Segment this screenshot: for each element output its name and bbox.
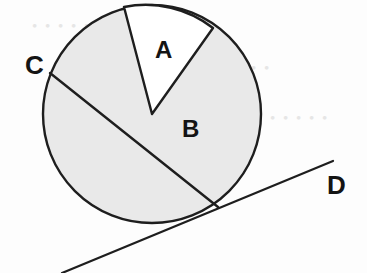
- geometry-figure: • • • • • • • • • • • • • • • • • • • C …: [0, 0, 367, 273]
- point-label-d: D: [327, 172, 346, 198]
- region-label-a: A: [155, 38, 172, 62]
- region-label-b: B: [182, 117, 199, 141]
- point-label-c: C: [25, 52, 44, 78]
